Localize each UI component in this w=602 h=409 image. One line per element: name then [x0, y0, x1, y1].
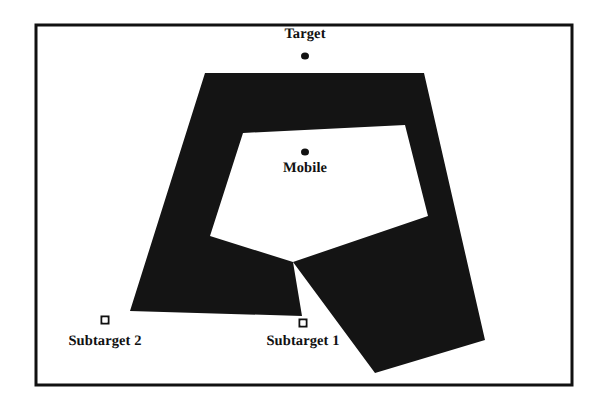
target-marker	[301, 53, 309, 60]
mobile-dot-icon	[301, 149, 309, 156]
subtarget-2-marker	[101, 316, 110, 325]
subtarget-1-square-icon	[299, 319, 308, 328]
target-label: Target	[284, 26, 325, 43]
target-dot-icon	[301, 53, 309, 60]
subtarget-2-label: Subtarget 2	[68, 333, 141, 350]
figure-container: Target Mobile Subtarget 1 Subtarget 2	[0, 0, 602, 409]
subtarget-2-square-icon	[101, 316, 110, 325]
mobile-label: Mobile	[283, 160, 327, 177]
subtarget-1-marker	[299, 319, 308, 328]
mobile-marker	[301, 149, 309, 156]
subtarget-1-label: Subtarget 1	[266, 333, 339, 350]
